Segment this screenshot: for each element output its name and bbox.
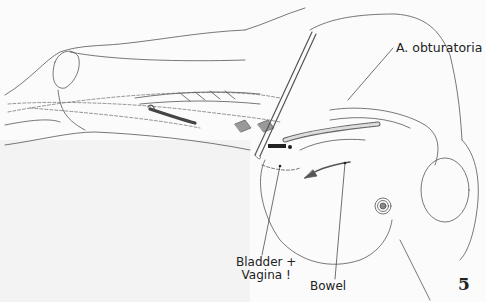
thigh-outline — [5, 30, 250, 150]
organ-outlines — [260, 160, 392, 264]
retraction-arrow — [305, 162, 350, 178]
label-bladder-vagina: Bladder + Vagina ! — [236, 256, 296, 282]
graft-ring — [375, 198, 391, 214]
label-a-obturatoria: A. obturatoria — [396, 41, 482, 54]
label-bladder-line2: Vagina ! — [236, 269, 296, 282]
figure-number: 5 — [458, 274, 470, 294]
vascular-graft — [285, 124, 378, 140]
black-marker — [268, 144, 286, 148]
label-bowel: Bowel — [310, 280, 346, 293]
leader-lines — [262, 48, 393, 279]
anatomical-illustration: A. obturatoria Bladder + Vagina ! Bowel … — [0, 0, 486, 302]
